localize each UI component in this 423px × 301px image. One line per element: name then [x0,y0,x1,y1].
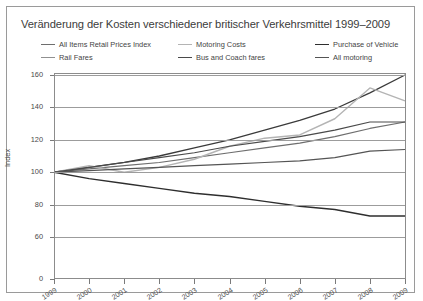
x-axis-tick-label: 2003 [180,286,198,301]
y-axis-tick-label: 60 [35,232,43,241]
legend-item[interactable]: All motoring [315,50,423,63]
legend-line-swatch-icon [178,57,192,58]
legend-label: Rail Fares [59,53,93,62]
legend-item[interactable]: Purchase of Vehicle [315,37,423,50]
legend-label: All motoring [333,53,372,62]
y-axis-tick-label: 160 [31,70,43,79]
legend-item[interactable]: Motoring Costs [178,37,318,50]
x-axis-tick-label: 2004 [216,286,234,301]
legend-line-swatch-icon [41,57,55,58]
legend-label: Motoring Costs [196,40,246,49]
chart-title: Veränderung der Kosten verschiedener bri… [21,18,421,30]
y-axis-tick-label: 120 [31,135,43,144]
chart-legend: All Items Retail Prices IndexRail FaresM… [41,37,421,63]
x-axis-tick-label: 1999 [40,286,58,301]
x-axis-tick-label: 2006 [286,286,304,301]
y-axis-tick-label: 100 [31,167,43,176]
legend-line-swatch-icon [178,44,192,45]
x-axis-tick-label: 2008 [356,286,374,301]
legend-line-swatch-icon [315,57,329,58]
y-axis-tick-label: 80 [35,200,43,209]
x-axis-tick-label: 2009 [391,286,409,301]
y-axis-title: Index [3,149,12,167]
legend-column: Purchase of VehicleAll motoring [315,37,423,63]
plot-area [54,73,406,279]
legend-column: All Items Retail Prices IndexRail Fares [41,37,181,63]
x-axis-tick-label: 2002 [145,286,163,301]
legend-item[interactable]: All Items Retail Prices Index [41,37,181,50]
chart-panel: Veränderung der Kosten verschiedener bri… [6,6,415,293]
plot-border [54,73,406,279]
legend-line-swatch-icon [41,44,55,45]
x-axis-tick-label: 2005 [251,286,269,301]
x-axis-tick-label: 2001 [110,286,128,301]
legend-label: Purchase of Vehicle [333,40,398,49]
legend-line-swatch-icon [315,44,329,45]
legend-item[interactable]: Bus and Coach fares [178,50,318,63]
y-axis-tick-label: 140 [31,102,43,111]
y-axis-labels: 06080100120140160 [7,73,51,279]
legend-label: Bus and Coach fares [196,53,265,62]
legend-label: All Items Retail Prices Index [59,40,151,49]
x-axis-labels: 1999200020012002200320042005200620072008… [54,284,406,301]
x-axis-tick-label: 2007 [321,286,339,301]
legend-column: Motoring CostsBus and Coach fares [178,37,318,63]
x-axis-tick-label: 2000 [75,286,93,301]
legend-item[interactable]: Rail Fares [41,50,181,63]
y-axis-tick-label: 0 [39,274,43,283]
